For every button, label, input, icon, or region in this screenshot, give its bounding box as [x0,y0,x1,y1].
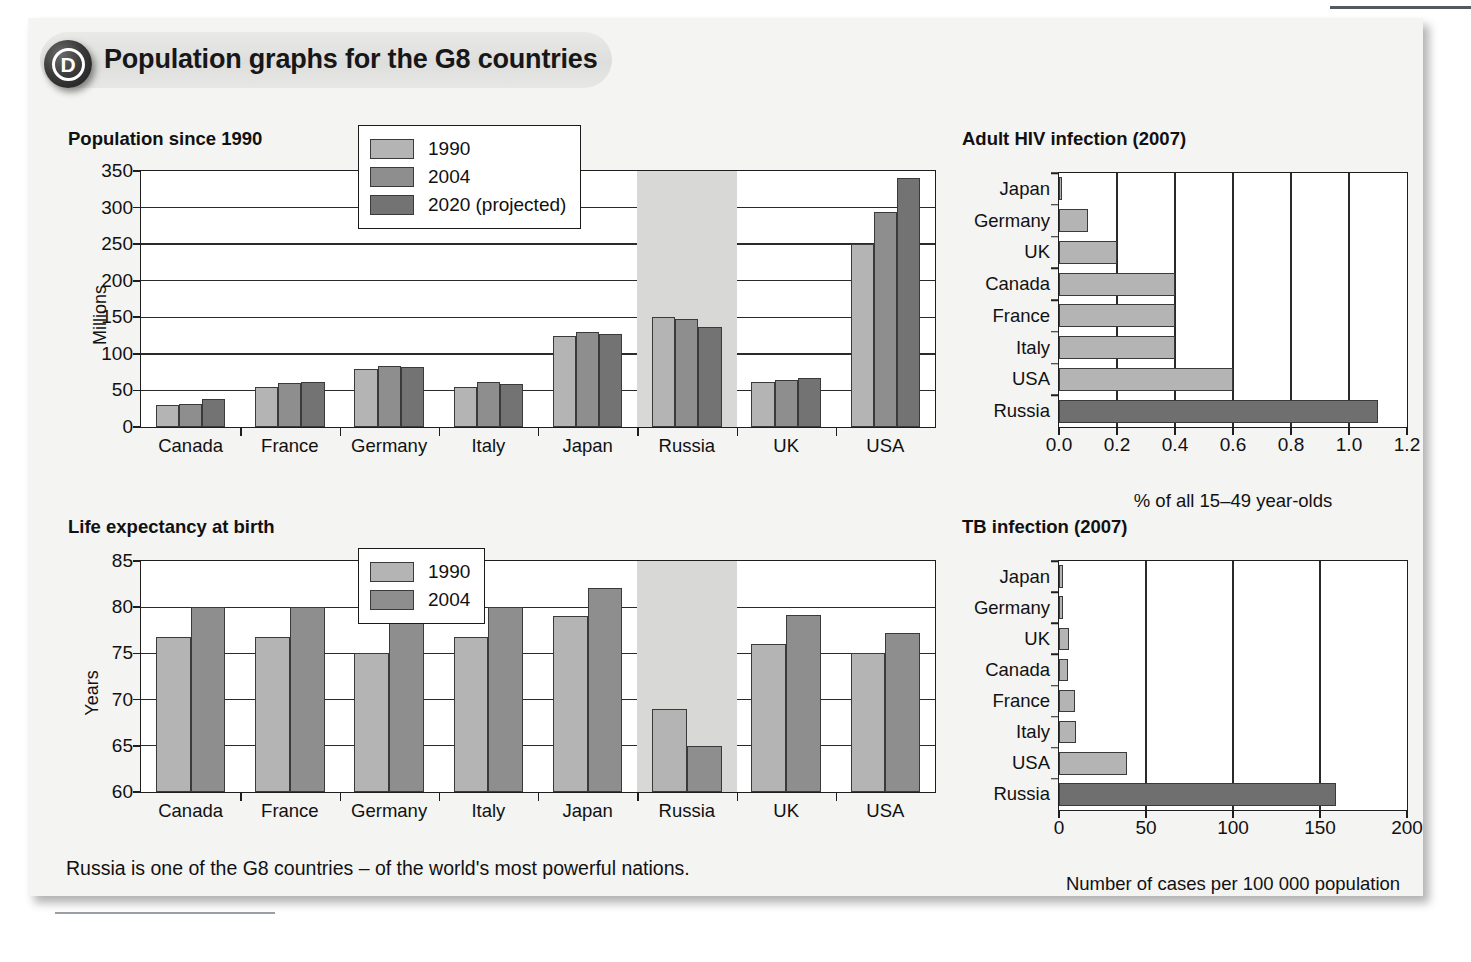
tb-bar [1059,690,1075,712]
population-x-category-italy: Italy [439,435,538,457]
population-bar [698,327,721,427]
population-legend-label: 2020 (projected) [428,194,566,216]
life-y-tick-mark [133,745,141,747]
population-bar [401,367,424,427]
population-legend: 199020042020 (projected) [358,125,581,229]
tb-category-mark [1051,685,1059,687]
tb-gridline [1145,561,1146,810]
hiv-category-germany: Germany [974,210,1050,232]
population-y-tick-50: 50 [112,379,133,401]
life-plot-area: 606570758085CanadaFranceGermanyItalyJapa… [140,560,936,793]
tb-x-tick-50: 50 [1135,817,1156,839]
population-bar [798,378,821,427]
population-gridline [141,243,935,244]
life-x-category-japan: Japan [538,800,637,822]
life-bar [751,644,786,792]
population-x-category-uk: UK [737,435,836,457]
life-y-tick-60: 60 [112,781,133,803]
life-bar [454,637,489,792]
life-y-tick-85: 85 [112,550,133,572]
population-y-tick-mark [133,207,141,209]
tb-bar [1059,659,1068,681]
population-bar [454,387,477,427]
population-x-category-usa: USA [836,435,935,457]
population-gridline [141,280,935,281]
hiv-bar [1059,336,1175,359]
section-badge-letter: D [52,48,85,81]
hiv-category-mark [1051,268,1059,270]
hiv-x-tick-0.0: 0.0 [1046,434,1072,456]
tb-gridline [1232,561,1233,810]
tb-bar [1059,783,1336,805]
hiv-chart-title: Adult HIV infection (2007) [962,128,1186,150]
population-bar [278,383,301,427]
life-legend-label: 2004 [428,589,470,611]
life-legend-row: 2004 [370,586,470,614]
population-x-category-japan: Japan [538,435,637,457]
top-rule [1330,6,1471,9]
hiv-x-tick-1.0: 1.0 [1336,434,1362,456]
population-gridline [141,353,935,354]
tb-category-japan: Japan [1000,566,1050,588]
tb-gridline [1319,561,1320,810]
population-y-tick-300: 300 [101,197,133,219]
population-x-category-germany: Germany [340,435,439,457]
population-y-tick-mark [133,390,141,392]
life-legend: 19902004 [358,548,485,624]
population-bar [851,244,874,427]
hiv-x-tick-0.2: 0.2 [1104,434,1130,456]
life-legend-swatch [370,562,414,582]
tb-x-tick-mark [1232,810,1233,818]
tb-bar [1059,628,1069,650]
hiv-x-tick-0.4: 0.4 [1162,434,1188,456]
hiv-x-axis-label: % of all 15–49 year-olds [1058,490,1408,512]
population-legend-row: 1990 [370,135,566,163]
tb-category-russia: Russia [993,783,1050,805]
population-bar [202,399,225,427]
population-bar [477,382,500,427]
bottom-rule [55,912,275,914]
life-y-axis-label: Years [82,670,103,715]
tb-category-mark [1051,560,1059,562]
section-badge: D [44,40,92,88]
population-y-tick-mark [133,280,141,282]
hiv-plot-area: 0.00.20.40.60.81.01.2JapanGermanyUKCanad… [1058,172,1408,428]
hiv-x-tick-1.2: 1.2 [1394,434,1420,456]
life-y-tick-65: 65 [112,735,133,757]
life-legend-label: 1990 [428,561,470,583]
tb-category-mark [1051,747,1059,749]
life-bar [488,607,523,792]
hiv-x-tick-mark [1116,427,1117,435]
population-legend-label: 2004 [428,166,470,188]
population-x-category-france: France [240,435,339,457]
population-y-tick-250: 250 [101,233,133,255]
hiv-x-tick-mark [1174,427,1175,435]
hiv-x-tick-mark [1232,427,1233,435]
hiv-category-mark [1051,236,1059,238]
tb-x-tick-150: 150 [1304,817,1336,839]
life-y-tick-80: 80 [112,596,133,618]
life-bar [191,607,226,792]
life-y-tick-mark [133,699,141,701]
population-y-tick-0: 0 [122,416,133,438]
population-bar [897,178,920,427]
tb-x-tick-mark [1145,810,1146,818]
tb-x-tick-100: 100 [1217,817,1249,839]
hiv-category-mark [1051,331,1059,333]
tb-x-axis-label: Number of cases per 100 000 population [1058,873,1408,895]
tb-x-tick-0: 0 [1054,817,1065,839]
tb-category-usa: USA [1012,752,1050,774]
tb-category-canada: Canada [985,659,1050,681]
population-gridline [141,317,935,318]
hiv-category-russia: Russia [993,400,1050,422]
life-legend-swatch [370,590,414,610]
population-chart-title: Population since 1990 [68,128,262,150]
hiv-category-japan: Japan [1000,178,1050,200]
tb-bar [1059,752,1127,774]
life-x-category-italy: Italy [439,800,538,822]
hiv-x-tick-0.6: 0.6 [1220,434,1246,456]
hiv-gridline [1348,173,1349,427]
population-y-tick-100: 100 [101,343,133,365]
hiv-category-uk: UK [1024,241,1050,263]
tb-bar [1059,721,1076,743]
